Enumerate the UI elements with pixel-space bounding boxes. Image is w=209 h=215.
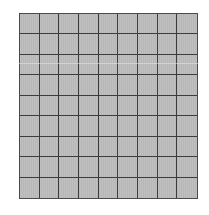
grid-cell	[158, 137, 178, 157]
grid-cell	[79, 34, 99, 54]
grid-cell	[79, 178, 99, 198]
grid-cell	[177, 96, 197, 116]
grid-cell	[138, 34, 158, 54]
grid-cell	[59, 157, 79, 177]
grid-cell	[177, 116, 197, 136]
grid-cell	[158, 178, 178, 198]
grid-cell	[79, 137, 99, 157]
grid-cell	[79, 157, 99, 177]
grid-cell	[118, 14, 138, 34]
grid-cell	[40, 75, 60, 95]
grid-cell	[138, 96, 158, 116]
grid-cell	[118, 34, 138, 54]
grid-cell	[118, 75, 138, 95]
grid-cell	[138, 178, 158, 198]
grid-cell	[20, 116, 40, 136]
grid-cell	[59, 55, 79, 75]
grid-cell	[59, 14, 79, 34]
grid-cell	[138, 14, 158, 34]
grid-cell	[177, 157, 197, 177]
grid-cell	[158, 55, 178, 75]
grid-cell	[79, 75, 99, 95]
grid-cell	[20, 14, 40, 34]
grid-cell	[138, 157, 158, 177]
grid-cell	[118, 96, 138, 116]
grid-cell	[177, 75, 197, 95]
grid-cell	[158, 34, 178, 54]
grid-cell	[177, 55, 197, 75]
grid-cell	[158, 116, 178, 136]
grid-cell	[40, 116, 60, 136]
grid-cell	[40, 14, 60, 34]
grid-cell	[118, 55, 138, 75]
grid-cell	[40, 55, 60, 75]
grid-cell	[99, 34, 119, 54]
grid-cell	[59, 96, 79, 116]
grid-cell	[40, 137, 60, 157]
grid-cell	[20, 34, 40, 54]
grid-cell	[99, 96, 119, 116]
grid-cell	[20, 178, 40, 198]
grid-cell	[118, 116, 138, 136]
grid-cell	[99, 14, 119, 34]
grid-cell	[99, 116, 119, 136]
grid-cell	[20, 157, 40, 177]
grid-cell	[118, 137, 138, 157]
grid-cell	[118, 178, 138, 198]
grid-cell	[20, 55, 40, 75]
grid-cell	[118, 157, 138, 177]
grid-cell	[158, 96, 178, 116]
grid-cell	[99, 75, 119, 95]
grid-cell	[59, 34, 79, 54]
grid-cell	[20, 137, 40, 157]
grid-cell	[59, 116, 79, 136]
grid-cell	[20, 75, 40, 95]
grid-cell	[138, 55, 158, 75]
grid-cell	[79, 116, 99, 136]
grid-cell	[177, 14, 197, 34]
grid-cell	[79, 55, 99, 75]
grid-board	[19, 13, 198, 199]
grid-cell	[138, 75, 158, 95]
grid-cell	[59, 137, 79, 157]
grid-cell	[99, 55, 119, 75]
grid-cell	[59, 75, 79, 95]
grid-cell	[79, 14, 99, 34]
grid-cell	[138, 116, 158, 136]
grid-cell	[177, 34, 197, 54]
grid-cell	[99, 157, 119, 177]
grid-cell	[99, 178, 119, 198]
grid-cell	[177, 137, 197, 157]
grid-cell	[59, 178, 79, 198]
canvas	[0, 0, 209, 215]
grid-cell	[158, 157, 178, 177]
grid-cell	[99, 137, 119, 157]
grid-cell	[158, 75, 178, 95]
grid-cell	[158, 14, 178, 34]
grid-cell	[40, 178, 60, 198]
grid-cell	[20, 96, 40, 116]
grid-cell	[40, 34, 60, 54]
grid-cell	[40, 96, 60, 116]
grid-cell	[40, 157, 60, 177]
grid-cell	[138, 137, 158, 157]
grid-cell	[177, 178, 197, 198]
grid-cell	[79, 96, 99, 116]
